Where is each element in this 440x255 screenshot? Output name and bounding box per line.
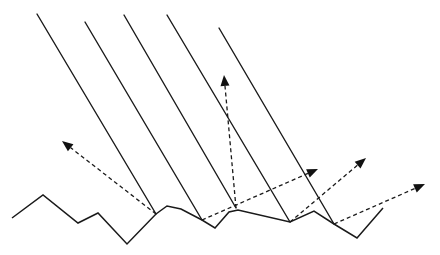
diffuse-reflection-diagram (0, 0, 440, 255)
surface-line (12, 195, 383, 244)
incident-ray-5 (219, 28, 334, 224)
reflected-ray-line (290, 165, 358, 222)
reflected-ray-line (202, 173, 308, 220)
incident-ray-3 (124, 15, 236, 208)
arrowhead-icon (221, 75, 230, 86)
arrowhead-icon (413, 184, 425, 193)
reflected-ray-line (71, 148, 156, 214)
reflected-rays (62, 75, 425, 224)
reflected-ray-5 (334, 184, 425, 224)
incident-rays (37, 14, 334, 224)
reflected-ray-line (225, 86, 236, 208)
arrowhead-icon (306, 169, 318, 178)
arrowhead-icon (355, 158, 366, 169)
reflected-ray-3 (221, 75, 236, 208)
reflected-ray-1 (62, 141, 156, 214)
incident-ray-1 (37, 14, 156, 214)
arrowhead-icon (62, 141, 73, 151)
rough-surface (12, 195, 383, 244)
incident-ray-2 (85, 22, 202, 220)
